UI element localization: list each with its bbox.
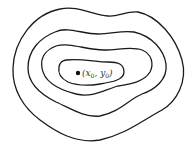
point-label: (x0, y0) <box>82 68 113 79</box>
point-marker <box>76 71 80 75</box>
contour-diagram: (x0, y0) <box>0 0 196 149</box>
